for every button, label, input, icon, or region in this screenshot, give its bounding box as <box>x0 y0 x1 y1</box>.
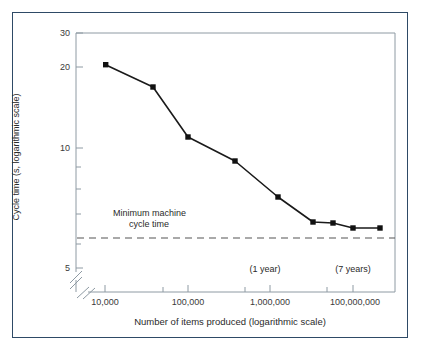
x-tick-label-10000: 10,000 <box>91 297 119 307</box>
minimum-cycle-time-label-line2: cycle time <box>113 219 186 230</box>
y-tick-label-30: 30 <box>52 28 70 38</box>
y-tick-label-10: 10 <box>52 143 70 153</box>
x-tick-label-100000: 100,000 <box>172 297 205 307</box>
cycle-time-series-line <box>106 65 380 228</box>
data-point <box>350 225 355 230</box>
x-axis-major-ticks <box>105 285 353 292</box>
minimum-cycle-time-label: Minimum machine cycle time <box>113 208 186 230</box>
x-tick-label-1000000: 1,000,000 <box>250 297 290 307</box>
y-tick-label-20: 20 <box>52 62 70 72</box>
x-axis-title: Number of items produced (logarithmic sc… <box>60 316 400 327</box>
axis-break-marks <box>70 271 95 299</box>
figure-container: 30 20 10 5 10,000 100,000 1,000,000 100,… <box>0 0 422 354</box>
data-point <box>377 225 382 230</box>
data-point <box>310 219 315 224</box>
y-axis-minor-ticks <box>76 167 81 244</box>
annotation-seven-years: (7 years) <box>335 264 371 274</box>
y-tick-label-5: 5 <box>52 263 70 273</box>
annotation-one-year: (1 year) <box>249 264 280 274</box>
data-point <box>275 194 280 199</box>
data-point <box>150 84 155 89</box>
data-point <box>232 158 237 163</box>
minimum-cycle-time-label-line1: Minimum machine <box>113 208 186 218</box>
x-break-slash-1 <box>77 287 89 298</box>
y-axis-title: Cycle time (s, logarithmic scale) <box>11 77 21 237</box>
x-tick-label-100000000: 100,000,000 <box>330 297 380 307</box>
data-point <box>330 220 335 225</box>
data-point <box>185 134 190 139</box>
y-axis-major-ticks <box>76 33 83 268</box>
cycle-time-series-markers <box>103 62 383 231</box>
data-point <box>103 62 108 67</box>
